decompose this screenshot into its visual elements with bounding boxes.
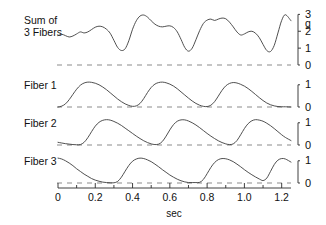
x-axis-label-1.2: 1.2	[274, 192, 289, 203]
y-axis-label-fiber-1-1: 1	[305, 79, 311, 90]
trace-fiber-1	[58, 82, 291, 107]
x-axis-label-0.8: 0.8	[200, 192, 215, 203]
x-axis-line	[58, 183, 291, 188]
y-axis-label-sum-of-3-fibers-1: 1	[305, 43, 311, 54]
y-axis-spine-fiber-2	[298, 123, 300, 145]
y-axis-unit-grams: g	[305, 18, 311, 29]
y-axis-spine-sum-of-3-fibers	[298, 14, 300, 65]
y-axis-label-sum-of-3-fibers-0: 0	[305, 60, 311, 71]
y-axis-group	[298, 14, 301, 183]
x-axis-label-0.4: 0.4	[125, 192, 140, 203]
y-axis-spine-fiber-1	[298, 85, 300, 107]
trace-group	[58, 15, 291, 183]
x-axis-label-0.6: 0.6	[163, 192, 178, 203]
y-axis-spine-fiber-3	[298, 161, 300, 183]
figure-muscle-fiber-force-traces: Sum of 3 Fibers Fiber 1 Fiber 2 Fiber 3 …	[0, 0, 326, 225]
x-axis-label-0: 0	[55, 192, 61, 203]
y-axis-label-fiber-3-0: 0	[305, 178, 311, 189]
y-axis-label-fiber-3-1: 1	[305, 155, 311, 166]
y-axis-label-fiber-1-0: 0	[305, 102, 311, 113]
x-axis-label-0.2: 0.2	[88, 192, 103, 203]
trace-fiber-2	[58, 120, 291, 145]
y-axis-label-fiber-2-0: 0	[305, 140, 311, 151]
trace-sum-of-3-fibers	[58, 15, 291, 52]
y-axis-label-fiber-2-1: 1	[305, 117, 311, 128]
x-axis-title: sec	[166, 208, 182, 219]
trace-fiber-3	[58, 158, 291, 183]
x-axis-label-1.0: 1.0	[237, 192, 252, 203]
